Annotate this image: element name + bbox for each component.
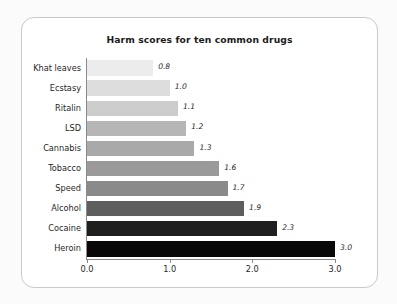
bar (87, 141, 194, 156)
category-label: Cannabis (43, 143, 81, 153)
bar-row: Khat leaves0.8 (87, 58, 335, 78)
bar (87, 121, 186, 136)
bar (87, 161, 219, 176)
bar-row: Speed1.7 (87, 179, 335, 199)
bar-value-label: 1.6 (224, 163, 236, 172)
x-tick-label: 3.0 (328, 264, 341, 274)
x-tick-label: 1.0 (163, 264, 176, 274)
bar-row: Cocaine2.3 (87, 219, 335, 239)
chart-frame: Harm scores for ten common drugs Khat le… (21, 17, 378, 288)
bar (87, 181, 228, 196)
category-label: Ritalin (55, 103, 81, 113)
category-label: LSD (65, 123, 81, 133)
category-label: Tobacco (48, 163, 81, 173)
x-tick-mark (87, 259, 88, 263)
bar-row: LSD1.2 (87, 118, 335, 138)
bar-value-label: 1.7 (233, 183, 245, 192)
chart-title: Harm scores for ten common drugs (22, 34, 377, 45)
x-tick-label: 2.0 (246, 264, 259, 274)
bar (87, 60, 153, 75)
bar (87, 241, 335, 256)
bar-row: Heroin3.0 (87, 239, 335, 259)
bar-value-label: 1.3 (199, 143, 211, 152)
bar (87, 80, 170, 95)
category-label: Heroin (54, 243, 81, 253)
bar (87, 101, 178, 116)
bar (87, 221, 277, 236)
x-tick-label: 0.0 (80, 264, 93, 274)
category-label: Ecstasy (50, 83, 81, 93)
bar-value-label: 3.0 (340, 243, 352, 252)
bar-value-label: 1.2 (191, 122, 203, 131)
bar-row: Ecstasy1.0 (87, 78, 335, 98)
bar-row: Tobacco1.6 (87, 159, 335, 179)
x-tick-mark (335, 259, 336, 263)
bar-value-label: 1.9 (249, 203, 261, 212)
bar-row: Alcohol1.9 (87, 199, 335, 219)
x-tick-mark (252, 259, 253, 263)
bar-row: Cannabis1.3 (87, 138, 335, 158)
category-label: Alcohol (51, 203, 81, 213)
plot-area: Khat leaves0.8Ecstasy1.0Ritalin1.1LSD1.2… (87, 58, 335, 259)
bar (87, 201, 244, 216)
category-label: Khat leaves (33, 63, 81, 73)
bar-value-label: 1.1 (183, 102, 195, 111)
category-label: Cocaine (48, 223, 81, 233)
bar-row: Ritalin1.1 (87, 98, 335, 118)
bar-value-label: 0.8 (158, 62, 170, 71)
bar-value-label: 1.0 (175, 82, 187, 91)
category-label: Speed (55, 183, 81, 193)
x-axis-line (86, 259, 335, 260)
bar-value-label: 2.3 (282, 223, 294, 232)
x-tick-mark (170, 259, 171, 263)
